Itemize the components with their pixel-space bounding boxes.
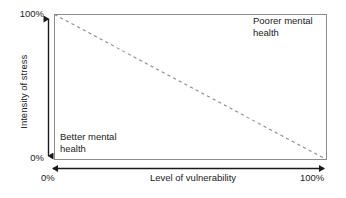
vulnerability-stress-diagram: 100% 0% 0% 100% Intensity of stress Leve… (0, 0, 346, 198)
y-axis-tick-max: 100% (6, 8, 44, 20)
x-axis-tick-max: 100% (300, 172, 324, 184)
annotation-better-mental-health: Better mental health (60, 131, 140, 155)
y-axis-title: Intensity of stress (18, 30, 30, 154)
x-axis-title: Level of vulnerability (120, 172, 266, 184)
x-axis-tick-min: 0% (41, 172, 55, 184)
annotation-poorer-mental-health: Poorer mental health (253, 15, 333, 39)
